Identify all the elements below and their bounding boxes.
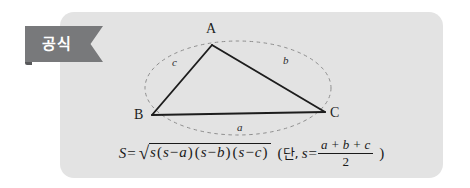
side-label-a: a [237, 122, 243, 133]
radicand-s-2: s [201, 144, 207, 160]
side-label-b: b [283, 55, 289, 66]
formula-radical: √s(s−a)(s−b)(s−c) [137, 142, 271, 161]
side-b-segment [212, 45, 325, 112]
fraction-numerator: a + b + c [318, 138, 373, 154]
banner-label: 공식 [25, 37, 71, 52]
section-banner: 공식 [25, 26, 105, 62]
vertex-label-a: A [206, 22, 216, 36]
side-c-segment [152, 45, 212, 115]
radical-sign-icon: √ [139, 142, 149, 163]
condition-symbol: s [299, 145, 308, 161]
radicand-minus-3: − [244, 144, 254, 160]
radicand-a: a [179, 144, 187, 160]
radicand-open-3: ( [232, 144, 239, 160]
vertex-label-c: C [330, 106, 339, 120]
condition-fraction: a + b + c2 [318, 138, 373, 168]
radicand-minus-1: − [169, 144, 179, 160]
condition-close-paren: ) [373, 145, 384, 161]
condition-word: 단, [283, 146, 299, 161]
radicand-open-1: ( [156, 144, 163, 160]
fraction-denominator: 2 [318, 154, 373, 169]
radicand-s-1: s [163, 144, 169, 160]
radicand-close-1: ) [187, 144, 194, 160]
vertex-label-b: B [134, 108, 143, 122]
radicand-close-3: ) [262, 144, 269, 160]
formula-radicand: s(s−a)(s−b)(s−c) [149, 143, 270, 160]
condition-open-paren: ( [271, 145, 283, 161]
banner-body: 공식 [25, 26, 103, 62]
radicand-minus-2: − [207, 144, 217, 160]
condition-equals: = [308, 145, 318, 161]
screenshot-root: A B C a b c 공식 S=√s(s−a)(s−b)(s−c)(단,s=a… [0, 0, 470, 188]
radicand-close-2: ) [225, 144, 232, 160]
heron-formula: S=√s(s−a)(s−b)(s−c)(단,s=a + b + c2) [60, 139, 443, 169]
radicand-b: b [217, 144, 225, 160]
side-a-segment [152, 112, 325, 115]
radicand-c: c [255, 144, 262, 160]
side-label-c: c [172, 57, 177, 68]
radicand-open-2: ( [194, 144, 201, 160]
formula-equals: = [126, 145, 136, 161]
